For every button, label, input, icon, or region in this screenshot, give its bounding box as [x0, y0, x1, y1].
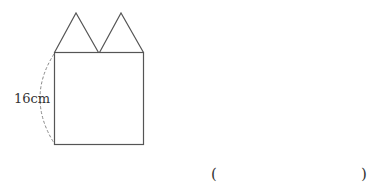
square [55, 53, 144, 145]
answer-open-paren: ( [211, 165, 217, 183]
figure-diagram [0, 0, 377, 194]
triangle-right [100, 13, 144, 53]
triangle-left [55, 13, 99, 53]
side-length-label: 16cm [14, 91, 50, 106]
answer-close-paren: ) [361, 165, 367, 183]
